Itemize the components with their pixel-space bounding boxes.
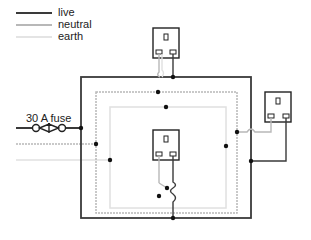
live-ring	[16, 77, 251, 218]
neutral-ring	[16, 92, 237, 213]
right-socket	[237, 92, 291, 161]
fuse-icon	[16, 124, 81, 132]
fuse-label: 30 A fuse	[26, 112, 71, 124]
top-socket	[153, 28, 179, 77]
centre-socket	[153, 130, 179, 218]
